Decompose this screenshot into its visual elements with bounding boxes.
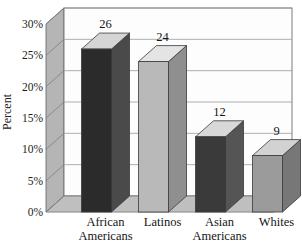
category-label-line: Asian: [205, 215, 235, 229]
bar-side-face: [169, 46, 187, 212]
category-label: Latinos: [144, 215, 182, 229]
bar: [253, 140, 301, 212]
category-label-line: Americans: [78, 229, 132, 243]
bar-front-face: [82, 49, 112, 212]
bar-value-label: 26: [99, 17, 112, 31]
category-label: AfricanAmericans: [78, 215, 132, 243]
y-axis-ticks: 0%5%10%15%20%25%30%: [22, 18, 44, 218]
y-tick-label: 15%: [22, 112, 44, 124]
y-tick-label: 0%: [28, 206, 44, 218]
y-tick-label: 30%: [22, 18, 44, 30]
bar-front-face: [196, 137, 226, 212]
y-tick-label: 20%: [22, 81, 44, 93]
category-label-line: Americans: [192, 229, 246, 243]
category-label-line: African: [86, 215, 125, 229]
category-labels-group: AfricanAmericansLatinosAsianAmericansWhi…: [78, 215, 294, 243]
bar-value-label: 24: [156, 30, 169, 44]
category-label: Whites: [259, 215, 295, 229]
chart-svg: 0%5%10%15%20%25%30% Percent 2624129 Afri…: [0, 0, 302, 250]
bar-front-face: [139, 62, 169, 212]
category-label-line: Whites: [259, 215, 295, 229]
bar: [82, 33, 130, 212]
bar-value-label: 12: [213, 105, 226, 119]
bar-side-face: [112, 33, 130, 212]
bar-chart: 0%5%10%15%20%25%30% Percent 2624129 Afri…: [0, 0, 302, 250]
bar: [196, 121, 244, 212]
y-axis-title: Percent: [0, 93, 14, 130]
category-label-line: Latinos: [144, 215, 182, 229]
y-tick-label: 5%: [28, 175, 44, 187]
y-tick-label: 25%: [22, 49, 44, 61]
y-tick-label: 10%: [22, 143, 44, 155]
bar-front-face: [253, 156, 283, 212]
bar: [139, 46, 187, 212]
bar-value-label: 9: [273, 124, 279, 138]
category-label: AsianAmericans: [192, 215, 246, 243]
